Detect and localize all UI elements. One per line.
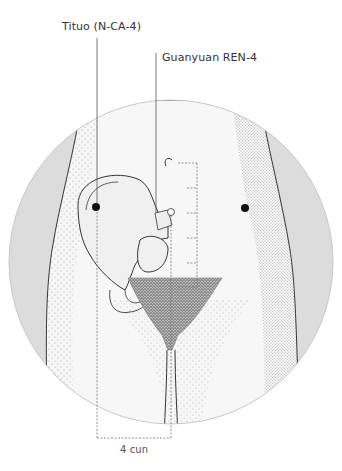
guanyuan-label: Guanyuan REN-4 (162, 51, 257, 64)
guanyuan-point (168, 209, 175, 216)
anatomy-diagram (0, 0, 342, 471)
tituo-label: Tituo (N-CA-4) (62, 20, 141, 33)
measurement-label: 4 cun (120, 444, 148, 455)
tituo-left-point (92, 203, 100, 211)
tituo-right-point (241, 204, 249, 212)
